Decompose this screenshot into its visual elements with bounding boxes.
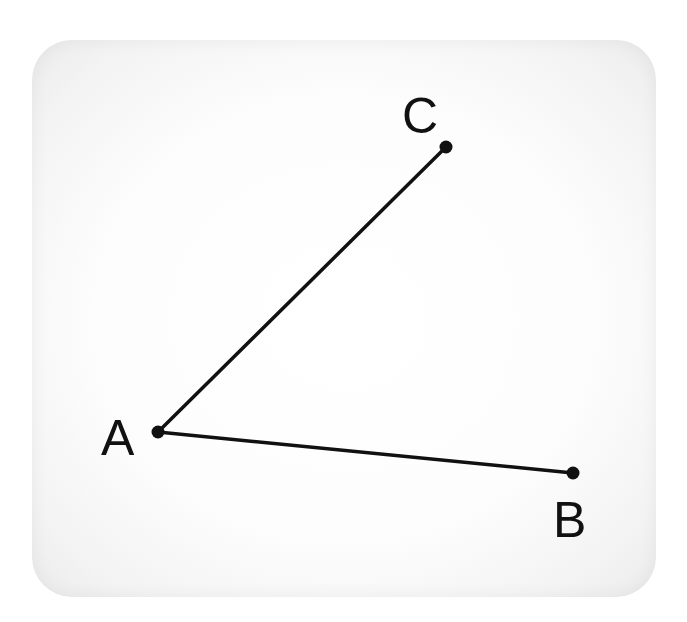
- label-a: A: [101, 410, 135, 466]
- segment-ab: [158, 432, 573, 473]
- label-c: C: [402, 88, 438, 144]
- point-a: [152, 426, 165, 439]
- segments: [158, 147, 573, 473]
- label-b: B: [553, 492, 586, 548]
- points: [152, 141, 580, 480]
- point-b: [567, 467, 580, 480]
- segment-ac: [158, 147, 446, 432]
- angle-diagram: A B C: [0, 0, 687, 622]
- labels: A B C: [101, 88, 586, 548]
- point-c: [440, 141, 453, 154]
